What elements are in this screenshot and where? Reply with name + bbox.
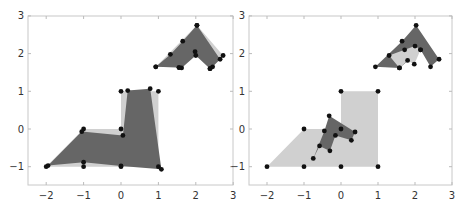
data-point: [413, 44, 418, 49]
x-tick-label: −2: [39, 190, 54, 201]
data-point: [400, 39, 405, 44]
x-tick-label: −1: [297, 190, 312, 201]
x-tick-label: 1: [155, 190, 161, 201]
data-point: [180, 39, 185, 44]
y-tick-label: 1: [239, 86, 245, 97]
data-point: [156, 89, 161, 94]
data-point: [376, 89, 381, 94]
data-point: [311, 156, 316, 161]
data-point: [412, 62, 417, 67]
data-point: [221, 53, 226, 58]
data-point: [327, 113, 332, 118]
data-point: [148, 86, 153, 91]
plot-panel-2: −2−10123−10123: [230, 10, 455, 201]
data-point: [376, 164, 381, 169]
x-tick-label: 3: [449, 190, 455, 201]
data-point: [81, 164, 86, 169]
data-point: [125, 88, 130, 93]
y-tick-label: 0: [18, 124, 24, 135]
x-tick-label: 2: [193, 190, 199, 201]
data-point: [302, 164, 307, 169]
x-tick-label: 0: [338, 190, 344, 201]
data-point: [265, 164, 270, 169]
y-tick-label: −1: [9, 161, 24, 172]
data-point: [405, 58, 410, 63]
data-point: [339, 164, 344, 169]
data-point: [328, 148, 333, 153]
data-point: [317, 144, 322, 149]
data-point: [322, 128, 327, 133]
data-point: [168, 52, 173, 57]
x-tick-label: 3: [230, 190, 236, 201]
data-point: [339, 89, 344, 94]
data-point: [79, 129, 84, 134]
y-tick-label: 0: [239, 124, 245, 135]
data-point: [119, 127, 124, 132]
data-point: [402, 47, 407, 52]
data-point: [177, 65, 182, 70]
data-point: [418, 47, 423, 52]
data-point: [339, 127, 344, 132]
data-point: [397, 66, 402, 71]
data-point: [153, 64, 158, 69]
data-point: [119, 89, 124, 94]
data-point: [437, 57, 442, 62]
x-tick-label: 2: [412, 190, 418, 201]
data-point: [387, 53, 392, 58]
data-point: [119, 164, 124, 169]
y-tick-label: −1: [230, 161, 245, 172]
plot-panel-1: −2−10123−10123: [9, 10, 236, 201]
data-point: [333, 133, 338, 138]
data-point: [373, 64, 378, 69]
data-point: [120, 133, 125, 138]
figure: −2−10123−10123−2−10123−10123: [0, 0, 470, 209]
data-point: [349, 138, 354, 143]
y-tick-label: 2: [18, 48, 24, 59]
data-point: [159, 167, 164, 172]
y-tick-label: 1: [18, 86, 24, 97]
x-tick-label: 0: [118, 190, 124, 201]
y-tick-label: 3: [18, 10, 24, 21]
data-point: [218, 57, 223, 62]
data-point: [195, 23, 200, 28]
data-point: [81, 160, 86, 165]
x-tick-label: −1: [76, 190, 91, 201]
data-point: [414, 23, 419, 28]
data-point: [46, 163, 51, 168]
x-tick-label: 1: [375, 190, 381, 201]
chart-canvas: −2−10123−10123−2−10123−10123: [0, 0, 470, 209]
data-point: [193, 53, 198, 58]
x-tick-label: −2: [260, 190, 275, 201]
data-point: [208, 66, 213, 71]
data-point: [353, 130, 358, 135]
data-point: [428, 64, 433, 69]
y-tick-label: 3: [239, 10, 245, 21]
data-point: [302, 127, 307, 132]
y-tick-label: 2: [239, 48, 245, 59]
